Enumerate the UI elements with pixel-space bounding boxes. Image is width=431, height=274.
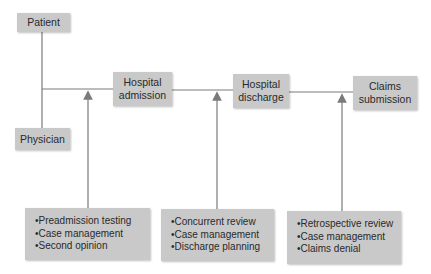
preadmission-activities-box: •Preadmission testing •Case management •… xyxy=(25,208,150,260)
stage-label-line1: Claims xyxy=(369,80,401,93)
activity-item: •Claims denial xyxy=(297,243,401,256)
activity-item: •Case management xyxy=(35,228,150,241)
activity-item: •Discharge planning xyxy=(171,241,274,254)
activity-item: •Case management xyxy=(171,229,274,242)
stage-label-line2: discharge xyxy=(238,91,284,104)
claims-submission-box: Claims submission xyxy=(353,76,417,110)
patient-label: Patient xyxy=(27,16,60,29)
physician-label: Physician xyxy=(20,133,65,146)
activity-item: •Case management xyxy=(297,231,401,244)
activity-item: •Second opinion xyxy=(35,240,150,253)
hospital-discharge-box: Hospital discharge xyxy=(233,74,289,108)
patient-box: Patient xyxy=(17,13,70,32)
stage-label-line2: submission xyxy=(359,93,412,106)
stage-label-line1: Hospital xyxy=(124,76,162,89)
stage-label-line1: Hospital xyxy=(242,78,280,91)
physician-box: Physician xyxy=(15,128,70,150)
activity-item: •Concurrent review xyxy=(171,216,274,229)
hospital-admission-box: Hospital admission xyxy=(113,72,172,106)
activity-item: •Retrospective review xyxy=(297,218,401,231)
concurrent-activities-box: •Concurrent review •Case management •Dis… xyxy=(161,209,274,261)
activity-item: •Preadmission testing xyxy=(35,215,150,228)
stage-label-line2: admission xyxy=(119,89,166,102)
retrospective-activities-box: •Retrospective review •Case management •… xyxy=(287,211,401,264)
